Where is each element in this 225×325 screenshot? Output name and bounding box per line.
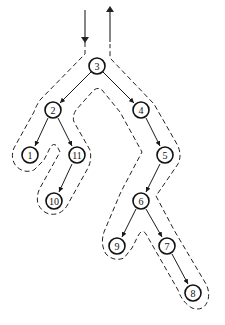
tree-node-6: 6 (133, 193, 149, 209)
traversal-contour (12, 42, 208, 309)
tree-node-3: 3 (89, 58, 105, 74)
svg-text:9: 9 (115, 241, 120, 252)
tree-node-2: 2 (45, 102, 61, 118)
svg-text:3: 3 (95, 61, 100, 72)
tree-node-10: 10 (46, 193, 62, 209)
svg-text:4: 4 (139, 105, 144, 116)
tree-node-9: 9 (109, 238, 125, 254)
tree-node-5: 5 (157, 147, 173, 163)
svg-text:1: 1 (28, 150, 33, 161)
svg-text:5: 5 (163, 150, 168, 161)
tree-diagram: 3 2 4 1 11 10 5 6 9 7 8 (0, 0, 225, 325)
svg-text:7: 7 (165, 241, 170, 252)
tree-node-8: 8 (185, 285, 201, 301)
tree-node-1: 1 (22, 147, 38, 163)
svg-text:2: 2 (51, 105, 56, 116)
tree-node-4: 4 (133, 102, 149, 118)
svg-text:10: 10 (49, 196, 59, 207)
tree-node-7: 7 (159, 238, 175, 254)
tree-node-11: 11 (69, 147, 85, 163)
svg-text:11: 11 (72, 150, 82, 161)
svg-text:8: 8 (191, 288, 196, 299)
svg-text:6: 6 (139, 196, 144, 207)
